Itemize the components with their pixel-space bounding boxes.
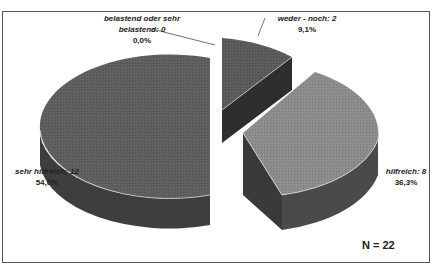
label-belastend: belastend oder sehr belastend: 0 0,0% <box>82 13 202 46</box>
sample-size-label: N = 22 <box>362 239 395 251</box>
label-weder-noch: weder - noch: 2 9,1% <box>262 13 352 35</box>
slice-sehr-hilfreich <box>40 54 210 228</box>
label-sehr-hilfreich: sehr hilfreich: 12 54,6% <box>2 166 92 188</box>
label-hilfreich: hilfreich: 8 36,3% <box>376 166 435 188</box>
pie-chart <box>0 0 435 268</box>
